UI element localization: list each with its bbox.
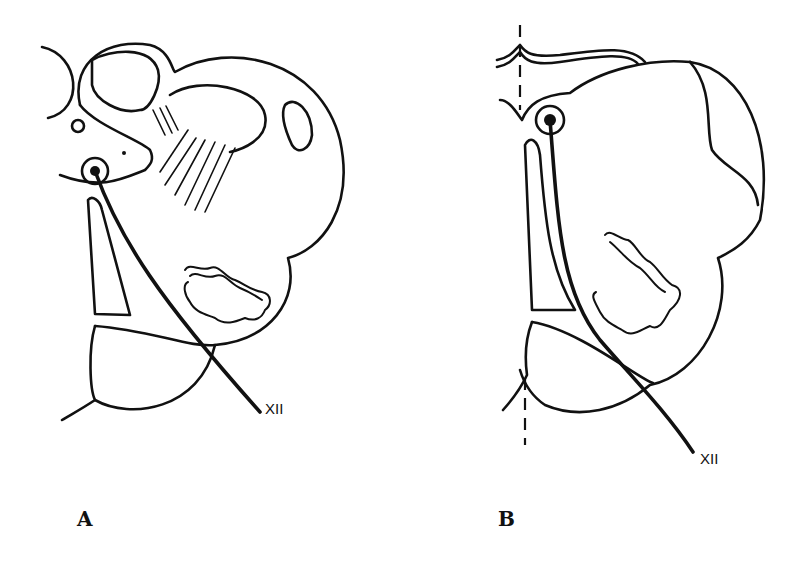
- outline-b: [520, 62, 764, 412]
- pyramid-triangle-b: [525, 140, 575, 310]
- panel-label-b: B: [498, 507, 515, 531]
- pyramid-left-b: [503, 322, 532, 410]
- panel-label-a: A: [77, 507, 93, 531]
- tract-b: [690, 62, 758, 205]
- nerve-label-b: XII: [700, 450, 718, 467]
- olive-b: [593, 233, 680, 334]
- nerve-label-a: XII: [265, 400, 283, 417]
- panel-b-drawing: [0, 0, 806, 565]
- top-outline-b: [500, 61, 690, 120]
- figure-canvas: XII XII A B: [0, 0, 806, 565]
